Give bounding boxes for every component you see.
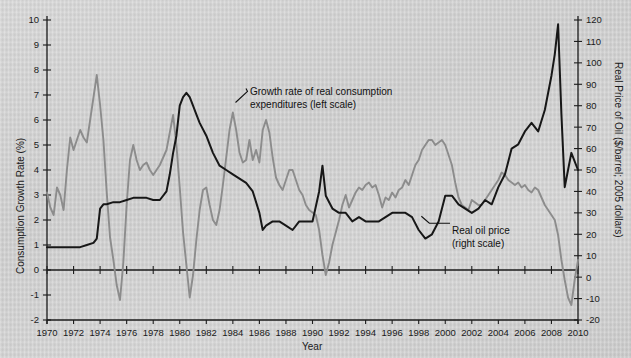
chart-figure: -2-1012345678910 -20-1001020304050607080… [0, 0, 631, 358]
svg-text:50: 50 [586, 164, 597, 175]
svg-text:0: 0 [34, 264, 39, 275]
annotation-consumption-line1: Growth rate of real consumption [250, 86, 392, 99]
annotation-consumption-line2: expenditures (left scale) [250, 99, 392, 112]
svg-text:1996: 1996 [382, 327, 403, 338]
svg-text:8: 8 [34, 64, 39, 75]
svg-text:7: 7 [34, 89, 39, 100]
svg-text:1970: 1970 [36, 327, 57, 338]
svg-text:100: 100 [586, 57, 602, 68]
axis-lines [47, 16, 578, 324]
svg-text:2010: 2010 [567, 327, 588, 338]
svg-text:10: 10 [28, 14, 39, 25]
svg-text:10: 10 [586, 250, 597, 261]
svg-text:6: 6 [34, 114, 39, 125]
svg-text:1994: 1994 [355, 327, 376, 338]
svg-text:2002: 2002 [461, 327, 482, 338]
svg-text:1986: 1986 [249, 327, 270, 338]
annotation-leader-oil [421, 216, 450, 223]
annotation-consumption: Growth rate of real consumption expendit… [250, 86, 392, 111]
svg-text:1990: 1990 [302, 327, 323, 338]
svg-text:5: 5 [34, 139, 39, 150]
svg-text:1992: 1992 [328, 327, 349, 338]
annotation-oil: Real oil price (right scale) [452, 225, 510, 250]
chart-canvas: -2-1012345678910 -20-1001020304050607080… [0, 0, 631, 358]
svg-text:70: 70 [586, 122, 597, 133]
left-axis-title-text: Consumption Growth Rate (%) [15, 138, 26, 274]
right-axis-title-text: Real Price of Oil ($/barrel; 2005 dollar… [613, 62, 624, 238]
svg-text:120: 120 [586, 14, 602, 25]
svg-text:1988: 1988 [275, 327, 296, 338]
svg-text:1998: 1998 [408, 327, 429, 338]
svg-text:40: 40 [586, 186, 597, 197]
svg-text:1978: 1978 [143, 327, 164, 338]
right-axis-title: Real Price of Oil ($/barrel; 2005 dollar… [610, 60, 626, 310]
left-axis-title: Consumption Growth Rate (%) [2, 96, 18, 276]
svg-text:1974: 1974 [90, 327, 111, 338]
svg-text:30: 30 [586, 207, 597, 218]
svg-text:-20: -20 [586, 314, 600, 325]
svg-text:-1: -1 [31, 289, 39, 300]
svg-text:2008: 2008 [541, 327, 562, 338]
annotation-oil-line1: Real oil price [452, 225, 510, 238]
svg-text:110: 110 [586, 36, 601, 47]
svg-text:1984: 1984 [222, 327, 243, 338]
svg-text:0: 0 [586, 272, 591, 283]
svg-text:-2: -2 [31, 314, 39, 325]
svg-text:80: 80 [586, 100, 597, 111]
svg-text:1: 1 [34, 239, 39, 250]
svg-text:2000: 2000 [435, 327, 456, 338]
svg-text:1980: 1980 [169, 327, 190, 338]
svg-text:1972: 1972 [63, 327, 84, 338]
annotation-oil-line2: (right scale) [452, 238, 510, 251]
svg-text:3: 3 [34, 189, 39, 200]
svg-text:4: 4 [34, 164, 39, 175]
svg-text:2: 2 [34, 214, 39, 225]
svg-text:2004: 2004 [488, 327, 509, 338]
svg-text:2006: 2006 [514, 327, 535, 338]
svg-text:1976: 1976 [116, 327, 137, 338]
svg-text:90: 90 [586, 79, 597, 90]
data-series-group [47, 24, 578, 305]
svg-text:20: 20 [586, 229, 597, 240]
svg-text:1982: 1982 [196, 327, 217, 338]
x-axis-title: Year [302, 341, 322, 352]
annotation-leader-consumption [236, 89, 248, 103]
svg-text:9: 9 [34, 39, 39, 50]
x-axis-ticks: 1970197219741976197819801982198419861988… [36, 266, 588, 338]
svg-text:60: 60 [586, 143, 597, 154]
svg-text:-10: -10 [586, 293, 600, 304]
